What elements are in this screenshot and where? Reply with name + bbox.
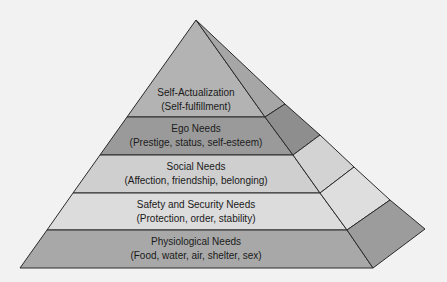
level-label-safety-needs: Safety and Security Needs (Protection, o… (96, 198, 296, 226)
level-title: Safety and Security Needs (96, 198, 296, 212)
level-label-ego-needs: Ego Needs (Prestige, status, self-esteem… (96, 122, 296, 150)
level-label-physiological-needs: Physiological Needs (Food, water, air, s… (96, 235, 296, 263)
level-subtitle: (Food, water, air, shelter, sex) (96, 249, 296, 263)
level-title: Self-Actualization (96, 86, 296, 100)
maslow-pyramid-diagram: Self-Actualization (Self-fulfillment) Eg… (0, 0, 447, 282)
level-label-social-needs: Social Needs (Affection, friendship, bel… (96, 160, 296, 188)
level-subtitle: (Prestige, status, self-esteem) (96, 136, 296, 150)
level-subtitle: (Self-fulfillment) (96, 100, 296, 114)
level-title: Social Needs (96, 160, 296, 174)
level-title: Physiological Needs (96, 235, 296, 249)
level-title: Ego Needs (96, 122, 296, 136)
level-subtitle: (Protection, order, stability) (96, 212, 296, 226)
level-label-self-actualization: Self-Actualization (Self-fulfillment) (96, 86, 296, 114)
level-subtitle: (Affection, friendship, belonging) (96, 174, 296, 188)
